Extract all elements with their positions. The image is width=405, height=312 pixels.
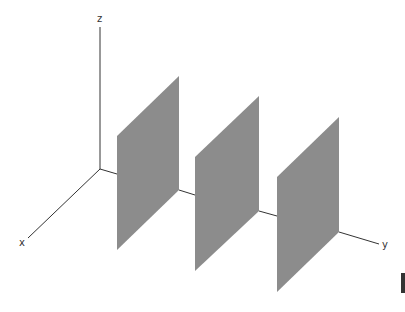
y-axis-segment-1 <box>100 169 117 174</box>
plane-1 <box>117 76 179 250</box>
x-axis <box>28 169 100 238</box>
y-axis-segment-4 <box>339 232 379 244</box>
x-axis-label: x <box>19 237 25 248</box>
plane-2 <box>195 96 259 271</box>
y-axis-segment-2 <box>179 190 195 195</box>
y-axis-segment-3 <box>259 211 277 216</box>
plane-3 <box>277 117 339 292</box>
z-axis-label: z <box>97 13 102 24</box>
planes <box>117 76 339 292</box>
diagram-canvas: z x y <box>0 0 405 312</box>
y-axis-label: y <box>382 239 388 250</box>
edge-marker <box>401 273 405 293</box>
